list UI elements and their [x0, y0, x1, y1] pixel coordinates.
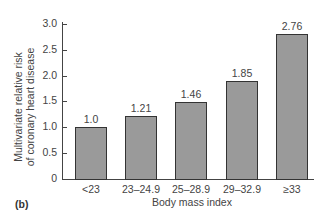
bar-23-24.9: [125, 116, 157, 180]
y-tick: [62, 179, 67, 180]
y-tick-label: 1.0: [35, 120, 57, 132]
y-tick-label: 0: [35, 172, 57, 184]
y-tick-label: 2.5: [35, 43, 57, 55]
bar-value-label: 1.46: [166, 88, 216, 100]
x-axis-label: Body mass index: [152, 196, 292, 208]
y-tick-label: 1.5: [35, 94, 57, 106]
y-tick: [62, 76, 67, 77]
bar-value-label: 1.21: [116, 102, 166, 114]
bar-25-28.9: [175, 102, 207, 180]
y-tick: [62, 153, 67, 154]
bar-lt23: [75, 127, 107, 180]
bar-value-label: 1.85: [217, 67, 267, 79]
bar-chart: Multivariate relative risk of coronary h…: [0, 0, 324, 220]
y-tick-label: 3.0: [35, 17, 57, 29]
panel-label: (b): [15, 198, 28, 210]
y-tick: [62, 127, 67, 128]
y-tick-label: 0.5: [35, 146, 57, 158]
bar-ge33: [276, 34, 308, 180]
y-tick: [62, 50, 67, 51]
y-tick-label: 2.0: [35, 69, 57, 81]
y-tick: [62, 101, 67, 102]
bar-29-32.9: [226, 81, 258, 180]
bar-value-label: 1.0: [66, 113, 116, 125]
y-axis-label-line-1: Multivariate relative risk: [12, 32, 24, 182]
x-category-label: ≥33: [262, 183, 322, 195]
bar-value-label: 2.76: [267, 20, 317, 32]
y-tick: [62, 24, 67, 25]
